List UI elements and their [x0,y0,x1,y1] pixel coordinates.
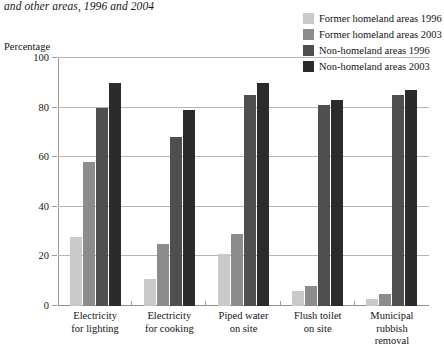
x-axis-label-line: Electricity [58,310,132,323]
x-axis-labels: Electricityfor lightingElectricityfor co… [58,310,429,346]
legend-item-label: Former homeland areas 1996 [319,13,442,25]
y-tick-label: 100 [33,52,49,63]
x-axis-label: Electricityfor lighting [58,310,132,346]
bar [170,137,182,306]
chart-figure: and other areas, 1996 and 2004 Former ho… [0,0,444,346]
legend-item-label: Former homeland areas 2003 [319,29,442,41]
y-tick-label: 60 [39,151,50,162]
x-axis-label-line: Flush toilet [281,310,355,323]
bar [379,294,391,306]
bar [70,237,82,306]
bar-groups [58,58,429,306]
bar [331,100,343,306]
x-axis-label-line: rubbish [355,323,429,336]
x-axis-label-line: Municipal [355,310,429,323]
bar [405,90,417,306]
bar-group [355,58,429,306]
bar [83,162,95,306]
y-tick-mark [52,206,57,207]
y-tick-label: 80 [39,101,50,112]
bar [305,286,317,306]
legend-item-label: Non-homeland areas 1996 [319,45,430,57]
bar [144,279,156,306]
x-axis-label-line: for cooking [132,323,206,336]
y-tick-mark [52,107,57,108]
x-axis-label: Electricityfor cooking [132,310,206,346]
bar-group [206,58,280,306]
bar [183,110,195,306]
bar-group [281,58,355,306]
y-tick-label: 20 [39,250,50,261]
bar [231,234,243,306]
legend-item: Former homeland areas 2003 [303,27,444,42]
bar [318,105,330,306]
bar-group [58,58,132,306]
legend-item: Former homeland areas 1996 [303,11,444,26]
bar [96,108,108,306]
plot-area: 020406080100 [58,58,429,306]
y-tick-mark [52,255,57,256]
legend-swatch-icon [303,45,314,56]
bar [292,291,304,306]
bar [218,254,230,306]
bar [366,299,378,306]
x-axis-label: Municipalrubbishremoval [355,310,429,346]
x-axis-label-line: on site [281,323,355,336]
legend-swatch-icon [303,29,314,40]
x-axis-label-line: Piped water [206,310,280,323]
bar [392,95,404,306]
y-tick-mark [52,57,57,58]
bar [244,95,256,306]
x-axis-label-line: for lighting [58,323,132,336]
y-tick-mark [52,305,57,306]
y-axis-label: Percentage [4,41,50,52]
x-axis-label: Piped wateron site [206,310,280,346]
legend-swatch-icon [303,13,314,24]
bar [109,83,121,306]
y-tick-label: 40 [39,200,50,211]
x-axis-label: Flush toileton site [281,310,355,346]
bar [157,244,169,306]
x-axis-label-line: removal [355,335,429,346]
x-axis-label-line: Electricity [132,310,206,323]
chart-title: and other areas, 1996 and 2004 [4,0,154,12]
y-tick-mark [52,156,57,157]
legend-item: Non-homeland areas 1996 [303,43,444,58]
bar [257,83,269,306]
y-tick-label: 0 [44,300,49,311]
bar-group [132,58,206,306]
x-axis-label-line: on site [206,323,280,336]
